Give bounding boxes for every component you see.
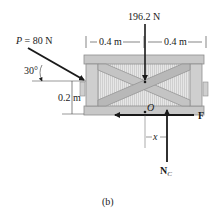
crate-right-post	[190, 64, 202, 106]
crate-bottom-board	[84, 106, 204, 115]
height-dimension-label: 0.2 m	[58, 92, 81, 103]
angle-label: 30°	[24, 65, 38, 76]
crate-left-post	[86, 64, 98, 106]
free-body-diagram: P = 80 N 30° 0.2 m 0.4 m 0.4 m 196.2 N O…	[0, 0, 217, 215]
force-p-label: P = 80 N	[15, 35, 52, 46]
point-o-label: O	[147, 102, 154, 113]
point-o-dot	[144, 111, 147, 114]
normal-label: NC	[160, 165, 172, 178]
weight-label: 196.2 N	[128, 11, 160, 22]
normal-force: NC	[160, 110, 172, 178]
center-of-gravity-point	[144, 81, 147, 84]
figure-caption: (b)	[102, 196, 114, 208]
crate-top-board	[84, 55, 204, 64]
friction-label: F	[198, 110, 204, 121]
x-offset-label: x	[152, 131, 158, 142]
left-span-label: 0.4 m	[99, 36, 122, 47]
angle-arc	[40, 65, 42, 81]
crate-handle-right	[203, 82, 208, 96]
right-span-label: 0.4 m	[164, 36, 187, 47]
crate	[80, 55, 208, 115]
